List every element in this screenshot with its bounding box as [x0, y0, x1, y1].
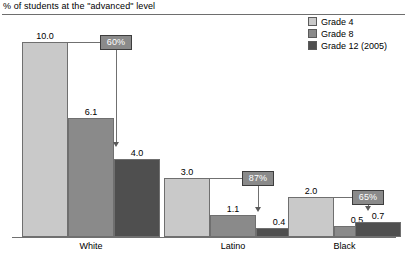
bar-value-white-grade-8: 6.1 — [68, 107, 114, 117]
callout-black-65: 65% — [352, 190, 384, 205]
plot-area: 10.0 6.1 4.0 60% White 3.0 1.1 0.4 87% L… — [0, 18, 407, 256]
bar-value-latino-grade-4: 3.0 — [164, 167, 210, 177]
title-divider — [2, 14, 405, 15]
bar-value-black-grade-4: 2.0 — [288, 186, 334, 196]
callout-arrow-head-white — [113, 142, 119, 147]
bar-white-grade-4 — [22, 42, 68, 237]
group-label-black: Black — [288, 241, 401, 252]
group-label-latino: Latino — [164, 241, 302, 252]
callout-leader-white — [68, 42, 101, 43]
callout-leader-black — [334, 197, 353, 198]
bar-value-black-grade-12: 0.7 — [355, 211, 401, 221]
bar-latino-grade-8 — [210, 215, 256, 237]
bar-white-grade-8 — [68, 118, 114, 237]
callout-leader-latino — [210, 178, 243, 179]
x-axis-baseline — [12, 237, 396, 238]
callout-white-60: 60% — [100, 35, 132, 50]
bar-value-white-grade-12: 4.0 — [114, 148, 160, 158]
bar-chart: % of students at the "advanced" level Gr… — [0, 0, 407, 256]
callout-arrow-head-latino — [255, 207, 261, 212]
chart-title: % of students at the "advanced" level — [3, 1, 155, 12]
bar-latino-grade-4 — [164, 178, 210, 237]
bar-black-grade-4 — [288, 197, 334, 237]
bar-value-white-grade-4: 10.0 — [22, 31, 68, 41]
callout-arrow-stem-white — [116, 50, 117, 143]
bar-value-latino-grade-8: 1.1 — [210, 204, 256, 214]
bar-white-grade-12 — [114, 159, 160, 237]
callout-arrow-head-black — [365, 206, 371, 211]
group-label-white: White — [22, 241, 160, 252]
callout-latino-87: 87% — [242, 171, 274, 186]
bar-black-grade-12 — [355, 222, 401, 237]
callout-arrow-stem-latino — [258, 186, 259, 208]
